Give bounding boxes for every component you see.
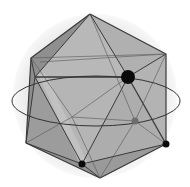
back-vertex-dot [132, 118, 139, 125]
icosahedron-diagram [0, 0, 190, 187]
upper-front-vertex-dot [121, 70, 135, 84]
lower-right-vertex-dot [163, 141, 170, 148]
bottom-left-vertex-dot [79, 161, 86, 168]
